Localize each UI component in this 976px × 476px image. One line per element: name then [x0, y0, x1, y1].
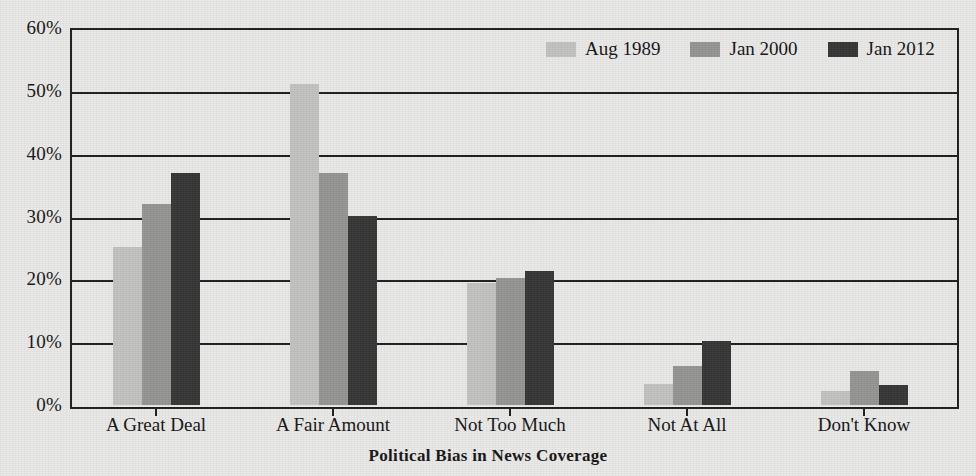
- x-axis-tick-label: Not At All: [647, 414, 726, 436]
- bar: [467, 283, 496, 405]
- x-axis-title: Political Bias in News Coverage: [0, 446, 976, 466]
- chart-legend: Aug 1989Jan 2000Jan 2012: [546, 33, 935, 65]
- legend-item-label: Aug 1989: [585, 38, 660, 60]
- legend-item: Jan 2012: [828, 38, 935, 60]
- bar-group: [290, 30, 377, 405]
- y-axis: 60%50%40%30%20%10%0%: [0, 28, 62, 405]
- y-axis-tick-label: 30%: [0, 206, 62, 228]
- y-axis-tick-label: 0%: [0, 394, 62, 416]
- legend-item-label: Jan 2012: [867, 38, 935, 60]
- bar: [702, 341, 731, 405]
- legend-swatch-medium: [690, 42, 720, 57]
- bar: [879, 385, 908, 405]
- bar: [821, 391, 850, 405]
- bar: [113, 247, 142, 405]
- bar-chart-figure: 60%50%40%30%20%10%0% A Great DealA Fair …: [0, 0, 976, 476]
- bar: [142, 204, 171, 405]
- bar: [673, 366, 702, 405]
- x-axis-tick-label: A Great Deal: [106, 414, 206, 436]
- bar-group: [821, 30, 908, 405]
- y-axis-tick-label: 50%: [0, 80, 62, 102]
- x-axis-tick-label: Don't Know: [818, 414, 911, 436]
- x-axis-tick-label: Not Too Much: [454, 414, 565, 436]
- y-axis-tick-label: 40%: [0, 143, 62, 165]
- legend-swatch-dark: [828, 42, 858, 57]
- bar-group: [113, 30, 200, 405]
- legend-item: Jan 2000: [690, 38, 797, 60]
- bar: [644, 384, 673, 405]
- bars-layer: [72, 30, 955, 405]
- y-axis-tick-label: 60%: [0, 17, 62, 39]
- y-axis-tick-label: 20%: [0, 268, 62, 290]
- bar: [171, 173, 200, 406]
- bar: [496, 278, 525, 405]
- bar: [290, 84, 319, 405]
- bar: [348, 216, 377, 405]
- x-axis-labels: A Great DealA Fair AmountNot Too MuchNot…: [0, 414, 976, 442]
- bar: [319, 173, 348, 406]
- bar-group: [644, 30, 731, 405]
- legend-item-label: Jan 2000: [729, 38, 797, 60]
- legend-swatch-light: [546, 42, 576, 57]
- bar: [850, 371, 879, 405]
- legend-item: Aug 1989: [546, 38, 660, 60]
- bar: [525, 271, 554, 405]
- y-axis-tick-label: 10%: [0, 331, 62, 353]
- x-axis-tick-label: A Fair Amount: [276, 414, 390, 436]
- bar-group: [467, 30, 554, 405]
